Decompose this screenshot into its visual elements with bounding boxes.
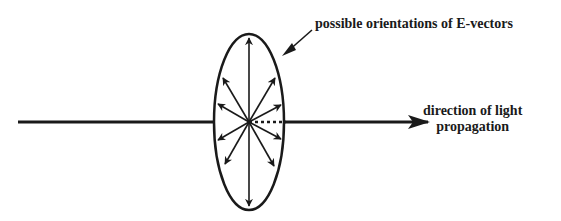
propagation-axis [18, 115, 430, 129]
direction-label: direction of light propagation [423, 103, 522, 135]
e-vector-upleft-icon [223, 78, 249, 122]
direction-label-line2: propagation [423, 119, 522, 135]
e-vectors [218, 38, 281, 206]
e-vectors-label: possible orientations of E-vectors [315, 16, 513, 32]
callout-arrow [282, 30, 312, 56]
direction-label-line1: direction of light [423, 103, 522, 119]
